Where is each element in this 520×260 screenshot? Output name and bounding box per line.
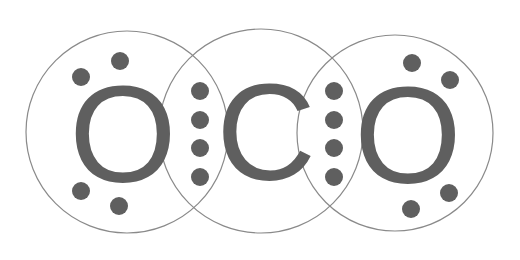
electron-dot xyxy=(325,139,343,157)
electron-dot xyxy=(325,168,343,186)
electron-dot xyxy=(72,68,90,86)
electron-dot xyxy=(191,82,209,100)
electron-dot xyxy=(110,197,128,215)
electron-dot xyxy=(191,168,209,186)
electron-dot xyxy=(441,71,459,89)
electron-dot xyxy=(325,82,343,100)
carbon-symbol: C xyxy=(216,55,316,209)
electron-dot xyxy=(440,184,458,202)
left-bond-shared-electrons xyxy=(191,82,209,186)
electron-dot xyxy=(402,200,420,218)
electron-dot xyxy=(403,54,421,72)
electron-dot xyxy=(72,182,90,200)
right-bond-shared-electrons xyxy=(325,82,343,186)
electron-dot xyxy=(191,139,209,157)
co2-lewis-diagram: O C O xyxy=(0,0,520,260)
electron-dot xyxy=(325,111,343,129)
electron-dot xyxy=(191,111,209,129)
electron-dot xyxy=(111,52,129,70)
